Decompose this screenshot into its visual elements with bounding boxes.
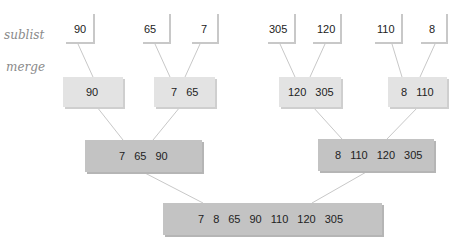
node-value: 305	[315, 86, 333, 98]
node-value: 8	[401, 86, 407, 98]
merge-node-level2: 8110	[388, 77, 447, 107]
node-value: 90	[250, 213, 262, 225]
node-value: 7	[119, 150, 125, 162]
node-value: 8	[335, 149, 341, 161]
leaf-node: 8	[421, 14, 448, 44]
node-value: 8	[213, 213, 219, 225]
node-value: 65	[134, 150, 146, 162]
merge-node-level2: 765	[154, 77, 215, 107]
node-value: 120	[377, 149, 395, 161]
merge-label: merge	[6, 60, 45, 74]
leaf-node: 305	[268, 14, 296, 44]
leaf-value: 110	[377, 23, 395, 35]
node-value: 65	[186, 86, 198, 98]
leaf-value: 65	[144, 23, 156, 35]
merge-node-level3: 76590	[85, 140, 202, 172]
leaf-value: 90	[74, 23, 86, 35]
node-value: 120	[288, 86, 306, 98]
merge-sort-diagram: sublist merge 90 65 7 305 120 110 8 90 7…	[0, 0, 455, 247]
merge-node-level2: 90	[63, 77, 123, 107]
leaf-node: 90	[66, 14, 95, 44]
sublist-label: sublist	[4, 28, 44, 42]
leaf-value: 8	[429, 23, 435, 35]
node-value: 65	[228, 213, 240, 225]
merge-result-node: 786590110120305	[163, 203, 382, 235]
node-value: 110	[416, 86, 434, 98]
leaf-node: 120	[313, 14, 342, 44]
leaf-node: 110	[375, 14, 403, 44]
node-value: 305	[404, 149, 422, 161]
node-value: 7	[198, 213, 204, 225]
leaf-node: 65	[143, 14, 171, 44]
node-value: 90	[155, 150, 167, 162]
merge-node-level2: 120305	[279, 77, 341, 107]
node-value: 305	[325, 213, 343, 225]
node-value: 7	[171, 86, 177, 98]
node-value: 110	[350, 149, 368, 161]
merge-node-level3: 8110120305	[318, 139, 434, 171]
leaf-node: 7	[192, 14, 219, 44]
leaf-value: 7	[201, 23, 207, 35]
leaf-value: 305	[269, 23, 287, 35]
node-value: 120	[297, 213, 315, 225]
node-value: 110	[271, 213, 289, 225]
node-value: 90	[86, 86, 98, 98]
leaf-value: 120	[317, 23, 335, 35]
